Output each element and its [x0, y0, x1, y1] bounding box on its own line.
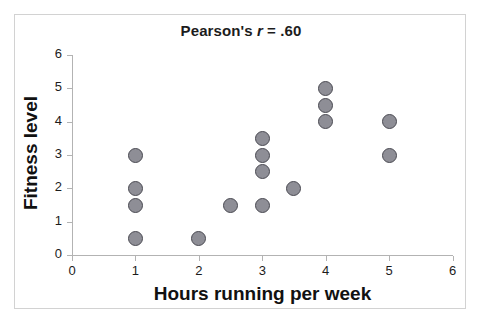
plot-area: 0123456 0123456 Hours running per week F… [0, 0, 482, 331]
x-tick-4 [326, 256, 327, 261]
y-tick-5 [67, 88, 72, 89]
x-tick-label-1: 1 [120, 263, 150, 278]
y-tick-4 [67, 122, 72, 123]
y-tick-1 [67, 222, 72, 223]
y-tick-label-6: 6 [38, 46, 62, 61]
y-tick-2 [67, 188, 72, 189]
x-tick-2 [199, 256, 200, 261]
scatter-point [255, 198, 270, 213]
scatter-point [128, 181, 143, 196]
x-tick-3 [262, 256, 263, 261]
scatter-point [318, 114, 333, 129]
figure-canvas: Pearson's r = .60 0123456 0123456 Hours … [0, 0, 482, 331]
scatter-point [128, 198, 143, 213]
scatter-point [382, 148, 397, 163]
y-tick-3 [67, 155, 72, 156]
x-tick-label-6: 6 [438, 263, 468, 278]
y-tick-0 [67, 255, 72, 256]
scatter-point [128, 148, 143, 163]
scatter-point [255, 164, 270, 179]
scatter-point [286, 181, 301, 196]
scatter-point [191, 231, 206, 246]
y-axis-line [72, 55, 73, 256]
x-tick-label-0: 0 [57, 263, 87, 278]
y-tick-6 [67, 55, 72, 56]
scatter-point [255, 131, 270, 146]
x-tick-label-3: 3 [247, 263, 277, 278]
scatter-point [318, 98, 333, 113]
y-axis-title: Fitness level [20, 78, 42, 228]
y-tick-label-0: 0 [38, 246, 62, 261]
x-tick-5 [389, 256, 390, 261]
scatter-point [128, 231, 143, 246]
x-tick-1 [135, 256, 136, 261]
scatter-point [318, 81, 333, 96]
scatter-point [223, 198, 238, 213]
x-tick-label-4: 4 [311, 263, 341, 278]
x-axis-title: Hours running per week [72, 283, 453, 305]
x-tick-label-5: 5 [374, 263, 404, 278]
x-tick-6 [453, 256, 454, 261]
x-tick-0 [72, 256, 73, 261]
scatter-point [255, 148, 270, 163]
scatter-point [382, 114, 397, 129]
x-tick-label-2: 2 [184, 263, 214, 278]
